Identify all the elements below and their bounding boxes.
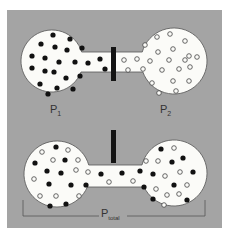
filled-particle (45, 91, 50, 96)
open-particle (174, 89, 179, 94)
filled-particle (47, 203, 52, 208)
open-particle (177, 192, 182, 197)
filled-particle (98, 171, 103, 176)
filled-particle (58, 170, 63, 175)
filled-particle (72, 59, 77, 64)
open-particle (51, 158, 56, 163)
open-particle (185, 183, 190, 188)
filled-particle (51, 69, 56, 74)
open-particle (163, 174, 168, 179)
filled-particle (46, 181, 51, 186)
open-particle (154, 187, 159, 192)
filled-particle (141, 184, 146, 189)
filled-particle (83, 182, 88, 187)
open-particle (86, 170, 91, 175)
filled-particle (32, 160, 37, 165)
open-particle (183, 58, 188, 63)
open-particle (157, 91, 162, 96)
label-p1-sub: 1 (57, 110, 61, 117)
label-p2-main: P (160, 103, 167, 115)
label-p-total-main: P (101, 207, 108, 219)
open-particle (40, 150, 45, 155)
open-particle (187, 54, 192, 59)
filled-particle (42, 68, 47, 73)
filled-particle (38, 41, 43, 46)
open-particle (148, 59, 153, 64)
open-particle (171, 79, 176, 84)
open-particle (131, 179, 136, 184)
open-particle (156, 159, 161, 164)
open-particle (160, 68, 165, 73)
filled-particle (77, 73, 82, 78)
open-particle (76, 158, 81, 163)
label-p1-main: P (50, 103, 57, 115)
filled-particle (169, 159, 174, 164)
filled-particle (63, 75, 68, 80)
filled-particle (79, 45, 84, 50)
filled-particle (63, 201, 68, 206)
open-particle (162, 203, 167, 208)
open-particle (143, 43, 148, 48)
filled-particle (97, 56, 102, 61)
filled-particle (68, 182, 73, 187)
open-particle (165, 193, 170, 198)
open-particle (122, 58, 127, 63)
filled-particle (158, 146, 163, 151)
filled-particle (85, 60, 90, 65)
open-particle (32, 177, 37, 182)
filled-particle (62, 157, 67, 162)
filled-particle (54, 85, 59, 90)
filled-particle (184, 197, 189, 202)
open-particle (156, 50, 161, 55)
filled-particle (42, 55, 47, 60)
filled-particle (50, 32, 55, 37)
filled-particle (44, 168, 49, 173)
open-particle (38, 194, 43, 199)
open-particle (77, 194, 82, 199)
open-particle (144, 159, 149, 164)
filled-particle (29, 53, 34, 58)
open-particle (172, 146, 177, 151)
filled-particle (137, 168, 142, 173)
gas-mixing-diagram: P1 P2 Ptotal (0, 0, 230, 241)
open-particle (54, 194, 59, 199)
filled-particle (119, 170, 124, 175)
open-particle (178, 170, 183, 175)
open-particle (150, 81, 155, 86)
filled-particle (52, 44, 57, 49)
bottom-barrier-raised (111, 130, 116, 163)
open-particle (177, 67, 182, 72)
filled-particle (150, 196, 155, 201)
filled-particle (190, 169, 195, 174)
open-particle (141, 67, 146, 72)
open-particle (155, 35, 160, 40)
filled-particle (150, 171, 155, 176)
filled-particle (53, 144, 58, 149)
filled-particle (102, 66, 107, 71)
filled-particle (56, 59, 61, 64)
top-barrier (111, 47, 116, 81)
label-p2-sub: 2 (167, 110, 171, 117)
open-particle (135, 57, 140, 62)
filled-particle (70, 86, 75, 91)
open-particle (126, 68, 131, 73)
open-particle (188, 65, 193, 70)
label-p-total-sub: total (108, 215, 119, 221)
filled-particle (37, 81, 42, 86)
filled-particle (29, 65, 34, 70)
open-particle (74, 168, 79, 173)
open-particle (167, 58, 172, 63)
open-particle (171, 47, 176, 52)
filled-particle (171, 182, 176, 187)
open-particle (168, 32, 173, 37)
open-particle (66, 148, 71, 153)
filled-particle (180, 155, 185, 160)
open-particle (107, 180, 112, 185)
filled-particle (64, 47, 69, 52)
open-particle (183, 39, 188, 44)
open-particle (187, 79, 192, 84)
open-particle (195, 55, 200, 60)
filled-particle (67, 36, 72, 41)
